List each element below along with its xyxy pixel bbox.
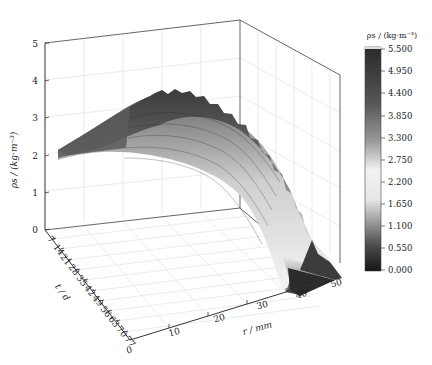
r-tick-10: 10 xyxy=(167,326,181,339)
z-axis: 0 1 2 3 4 5 ρs / (kg·m⁻³) xyxy=(9,39,49,235)
colorbar-tick-2: 4.400 xyxy=(388,88,412,98)
colorbar-tick-4: 3.300 xyxy=(388,133,412,143)
surface xyxy=(58,89,342,296)
colorbar-title: ρs / (kg·m⁻³) xyxy=(367,31,417,40)
z-tick-0: 0 xyxy=(32,225,38,235)
z-axis-label: ρs / (kg·m⁻³) xyxy=(9,131,19,189)
colorbar-tick-0: 5.500 xyxy=(388,44,412,54)
t-axis-label: t / d xyxy=(53,282,72,303)
colorbar-tick-1: 4.950 xyxy=(388,66,412,76)
colorbar-tick-9: 0.550 xyxy=(388,243,412,253)
r-tick-20: 20 xyxy=(212,312,226,325)
z-tick-1: 1 xyxy=(32,188,38,198)
r-tick-30: 30 xyxy=(255,299,269,312)
z-tick-2: 2 xyxy=(32,151,38,161)
r-axis-label: r / mm xyxy=(241,319,273,336)
r-tick-50: 50 xyxy=(329,277,343,290)
z-tick-4: 4 xyxy=(32,76,38,86)
z-tick-3: 3 xyxy=(32,113,38,123)
colorbar-tick-7: 1.650 xyxy=(388,199,412,209)
t-axis: 7 14 21 28 35 42 49 56 63 70 77 t / d xyxy=(45,230,138,349)
colorbar-tick-8: 1.100 xyxy=(388,221,412,231)
colorbar-tick-10: 0.000 xyxy=(388,265,412,275)
colorbar-tick-3: 3.850 xyxy=(388,111,412,121)
z-tick-5: 5 xyxy=(32,39,38,49)
surface-chart: 0 1 2 3 4 5 ρs / (kg·m⁻³) 7 14 21 28 35 xyxy=(0,0,432,365)
colorbar-tick-6: 2.200 xyxy=(388,177,412,187)
colorbar-tick-5: 2.750 xyxy=(388,155,412,165)
colorbar: ρs / (kg·m⁻³) 5.500 4.950 4.400 3.850 3.… xyxy=(365,31,417,275)
